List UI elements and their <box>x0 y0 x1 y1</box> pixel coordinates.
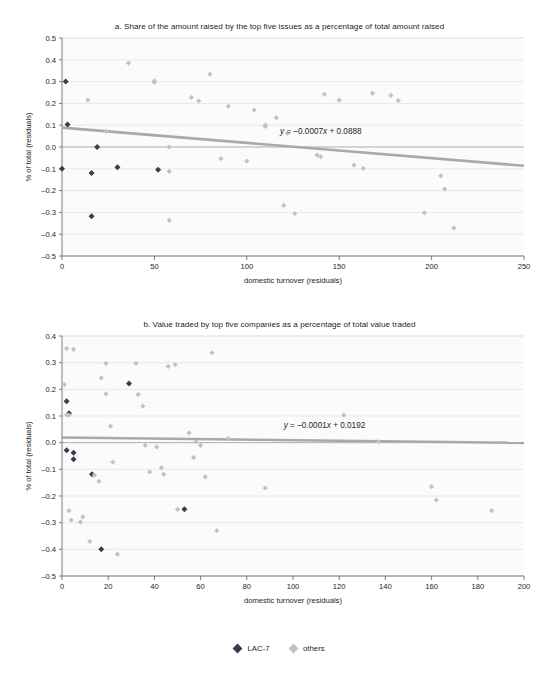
y-tick-label: 0.0 <box>45 143 56 152</box>
legend-diamond-others-icon <box>288 644 298 654</box>
y-tick-label: –0.5 <box>41 572 56 581</box>
y-axis-title: % of total (residuals) <box>24 112 33 182</box>
y-tick-label: 0.4 <box>45 56 56 65</box>
y-tick-label: 0.1 <box>45 412 56 421</box>
x-tick-label: 60 <box>196 582 204 591</box>
x-tick-label: 80 <box>243 582 251 591</box>
x-tick-label: 100 <box>240 262 253 271</box>
figure-page: a. Share of the amount raised by the top… <box>0 0 559 678</box>
chart-a-plot: 0.50.40.30.20.10.0–0.1–0.2–0.3–0.4–0.505… <box>0 22 559 302</box>
x-tick-label: 0 <box>60 582 64 591</box>
x-axis-title: domestic turnover (residuals) <box>244 596 342 605</box>
x-axis-title: domestic turnover (residuals) <box>244 276 342 285</box>
legend-item-lac7: LAC-7 <box>234 644 269 653</box>
x-tick-label: 50 <box>150 262 158 271</box>
chart-a-svg: 0.50.40.30.20.10.0–0.1–0.2–0.3–0.4–0.505… <box>0 22 559 302</box>
x-tick-label: 0 <box>60 262 64 271</box>
chart-b-svg: 0.40.30.20.10.0–0.1–0.2–0.3–0.4–0.502040… <box>0 320 559 620</box>
y-tick-label: 0.4 <box>45 332 56 341</box>
y-tick-label: 0.5 <box>45 34 56 43</box>
y-tick-label: –0.1 <box>41 165 56 174</box>
trendline-equation: y = –0.0007x + 0.0888 <box>279 127 362 136</box>
y-tick-label: 0.2 <box>45 385 56 394</box>
y-tick-label: –0.2 <box>41 186 56 195</box>
y-tick-label: –0.1 <box>41 465 56 474</box>
y-tick-label: 0.3 <box>45 358 56 367</box>
chart-panel-b: b. Value traded by top five companies as… <box>0 320 559 640</box>
x-tick-label: 250 <box>518 262 531 271</box>
x-tick-label: 200 <box>425 262 438 271</box>
y-axis: 0.50.40.30.20.10.0–0.1–0.2–0.3–0.4–0.5 <box>41 34 62 261</box>
y-tick-label: –0.4 <box>41 545 56 554</box>
x-axis: 050100150200250 <box>60 256 530 271</box>
legend-label-lac7: LAC-7 <box>248 644 270 653</box>
y-tick-label: 0.1 <box>45 121 56 130</box>
y-tick-label: 0.3 <box>45 77 56 86</box>
legend-item-others: others <box>290 644 325 653</box>
figure-legend: LAC-7 others <box>0 644 559 653</box>
x-tick-label: 100 <box>287 582 300 591</box>
y-tick-label: 0.2 <box>45 99 56 108</box>
plot-background <box>62 336 524 576</box>
y-tick-label: –0.2 <box>41 492 56 501</box>
y-tick-label: –0.4 <box>41 230 56 239</box>
y-axis: 0.40.30.20.10.0–0.1–0.2–0.3–0.4–0.5 <box>41 332 62 581</box>
x-tick-label: 180 <box>471 582 484 591</box>
x-tick-label: 20 <box>104 582 112 591</box>
chart-b-plot: 0.40.30.20.10.0–0.1–0.2–0.3–0.4–0.502040… <box>0 320 559 620</box>
y-tick-label: 0.0 <box>45 438 56 447</box>
x-tick-label: 120 <box>333 582 346 591</box>
y-tick-label: –0.5 <box>41 252 56 261</box>
trendline-equation: y = –0.0001x + 0.0192 <box>283 421 366 430</box>
x-tick-label: 140 <box>379 582 392 591</box>
x-tick-label: 160 <box>425 582 438 591</box>
y-tick-label: –0.3 <box>41 518 56 527</box>
x-tick-label: 200 <box>518 582 531 591</box>
x-axis: 020406080100120140160180200 <box>60 576 530 591</box>
y-axis-title: % of total (residuals) <box>24 421 33 491</box>
legend-label-others: others <box>303 644 325 653</box>
y-tick-label: –0.3 <box>41 208 56 217</box>
x-tick-label: 40 <box>150 582 158 591</box>
legend-diamond-lac7-icon <box>233 644 243 654</box>
chart-panel-a: a. Share of the amount raised by the top… <box>0 22 559 317</box>
x-tick-label: 150 <box>333 262 346 271</box>
